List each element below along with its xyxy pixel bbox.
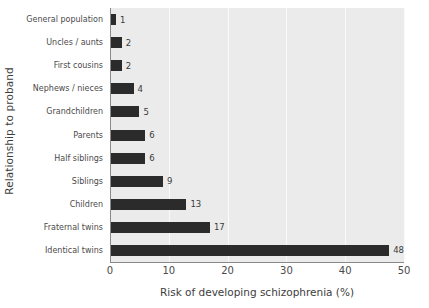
- y-axis-tick-label: Half siblings: [18, 147, 108, 170]
- bar: [110, 153, 145, 164]
- y-axis-tick-label: General population: [18, 8, 108, 31]
- bar-row: 9: [110, 170, 404, 193]
- bar: [110, 83, 134, 94]
- x-axis-tick-label: 20: [221, 265, 234, 276]
- bar: [110, 176, 163, 187]
- y-axis-tick-label: Uncles / aunts: [18, 31, 108, 54]
- y-axis-tick-label: Grandchildren: [18, 100, 108, 123]
- bar-value-label: 2: [126, 38, 131, 48]
- x-axis-tick-label: 40: [339, 265, 352, 276]
- bar: [110, 222, 210, 233]
- bar-value-label: 2: [126, 61, 131, 71]
- bars-layer: 12245669131748: [110, 8, 404, 262]
- y-axis-tick-label: Children: [18, 193, 108, 216]
- bar-value-label: 4: [138, 84, 143, 94]
- bar: [110, 60, 122, 71]
- bar-row: 6: [110, 147, 404, 170]
- x-axis-tick-label: 10: [162, 265, 175, 276]
- y-axis-tick-label: Siblings: [18, 170, 108, 193]
- y-axis-line: [110, 8, 111, 262]
- x-axis-tick-label: 0: [107, 265, 113, 276]
- bar-value-label: 6: [149, 153, 154, 163]
- x-axis-line: [110, 262, 404, 263]
- bar-row: 48: [110, 239, 404, 262]
- bar-chart: Relationship to proband General populati…: [0, 0, 429, 308]
- bar-row: 1: [110, 8, 404, 31]
- y-axis-title-text: Relationship to proband: [3, 67, 15, 195]
- bar-row: 2: [110, 54, 404, 77]
- bar: [110, 245, 389, 256]
- y-axis-title: Relationship to proband: [0, 0, 18, 262]
- y-axis-tick-label: Identical twins: [18, 239, 108, 262]
- bar-value-label: 9: [167, 176, 172, 186]
- x-axis-tick-labels: 01020304050: [110, 265, 404, 281]
- y-axis-tick-label: Fraternal twins: [18, 216, 108, 239]
- bar-value-label: 1: [120, 15, 125, 25]
- bar-value-label: 5: [143, 107, 148, 117]
- bar-value-label: 48: [393, 245, 404, 255]
- bar-value-label: 13: [190, 199, 201, 209]
- bar-row: 5: [110, 100, 404, 123]
- plot-area: 12245669131748: [110, 8, 404, 262]
- bar: [110, 199, 186, 210]
- bar-row: 6: [110, 123, 404, 146]
- gridline: [404, 8, 405, 262]
- y-axis-tick-label: Nephews / nieces: [18, 77, 108, 100]
- bar-row: 13: [110, 193, 404, 216]
- bar-row: 17: [110, 216, 404, 239]
- bar-row: 4: [110, 77, 404, 100]
- y-axis-tick-label: First cousins: [18, 54, 108, 77]
- y-axis-tick-labels: General populationUncles / auntsFirst co…: [18, 8, 108, 262]
- bar-value-label: 17: [214, 222, 225, 232]
- bar-value-label: 6: [149, 130, 154, 140]
- x-axis-tick-label: 50: [398, 265, 411, 276]
- bar: [110, 130, 145, 141]
- bar-row: 2: [110, 31, 404, 54]
- bar: [110, 37, 122, 48]
- y-axis-tick-label: Parents: [18, 123, 108, 146]
- x-axis-tick-label: 30: [280, 265, 293, 276]
- x-axis-title: Risk of developing schizophrenia (%): [110, 286, 404, 298]
- bar: [110, 106, 139, 117]
